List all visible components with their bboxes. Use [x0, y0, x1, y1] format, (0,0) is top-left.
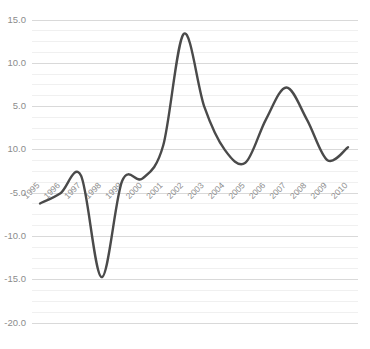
y-axis-tick-label: 15.0: [8, 14, 27, 25]
y-axis-tick-label: -15.0: [4, 273, 26, 284]
y-axis-tick-label: -10.0: [4, 230, 26, 241]
chart-canvas: 15.010.05.010.0-5.0-10.0-15.0-20.0 19951…: [0, 0, 370, 349]
line-chart-figure: 15.010.05.010.0-5.0-10.0-15.0-20.0 19951…: [0, 0, 370, 349]
y-axis-tick-label: 5.0: [13, 100, 26, 111]
y-axis-tick-label: 10.0: [8, 143, 27, 154]
y-axis-tick-label: 10.0: [8, 57, 27, 68]
y-axis-tick-label: -20.0: [4, 317, 26, 328]
